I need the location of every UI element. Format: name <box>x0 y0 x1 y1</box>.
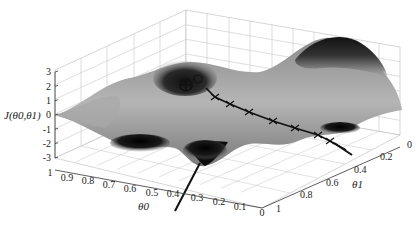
svg-text:0.5: 0.5 <box>146 187 159 198</box>
svg-text:0.6: 0.6 <box>326 177 339 188</box>
svg-text:0.3: 0.3 <box>191 192 204 203</box>
svg-text:2: 2 <box>46 81 51 92</box>
svg-text:0.1: 0.1 <box>234 201 247 212</box>
svg-text:0.4: 0.4 <box>354 164 367 175</box>
svg-text:1: 1 <box>46 95 51 106</box>
svg-text:0.4: 0.4 <box>167 188 180 199</box>
svg-text:-2: -2 <box>43 138 51 149</box>
svg-text:0.8: 0.8 <box>82 175 95 186</box>
svg-text:-1: -1 <box>43 124 51 135</box>
svg-text:0.6: 0.6 <box>124 183 137 194</box>
svg-text:0: 0 <box>260 207 265 218</box>
svg-text:0: 0 <box>407 139 412 150</box>
svg-text:0.9: 0.9 <box>61 172 74 183</box>
z-tick-labels: 3 2 1 0 -1 -2 -3 <box>43 66 51 163</box>
theta1-axis-label: θ1 <box>352 178 363 190</box>
surface-plot: 3 2 1 0 -1 -2 -3 J(θ0,θ1) 1 0.9 0.8 0.7 … <box>0 0 420 225</box>
svg-text:0.7: 0.7 <box>103 179 116 190</box>
z-axis-label: J(θ0,θ1) <box>4 109 41 122</box>
svg-text:0.2: 0.2 <box>213 196 226 207</box>
svg-text:0.2: 0.2 <box>380 151 393 162</box>
svg-text:3: 3 <box>46 66 51 77</box>
svg-text:1: 1 <box>48 167 53 178</box>
svg-text:0: 0 <box>46 109 51 120</box>
theta0-axis-label: θ0 <box>138 200 149 212</box>
svg-text:1: 1 <box>276 203 281 214</box>
svg-text:0.8: 0.8 <box>300 189 313 200</box>
svg-text:-3: -3 <box>43 152 51 163</box>
